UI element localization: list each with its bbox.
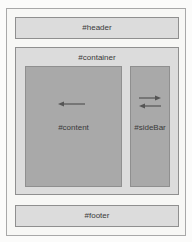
sidebar-label: #sideBar bbox=[131, 123, 169, 132]
content-label: #content bbox=[26, 123, 121, 132]
arrow-right-icon bbox=[139, 95, 161, 101]
arrow-left-icon bbox=[139, 103, 161, 109]
header-box: #header bbox=[15, 17, 179, 39]
sidebar-box: #sideBar bbox=[130, 66, 170, 187]
footer-label: #footer bbox=[85, 211, 110, 220]
content-box: #content bbox=[25, 66, 122, 187]
container-label: #container bbox=[16, 53, 178, 62]
footer-box: #footer bbox=[15, 205, 179, 227]
header-label: #header bbox=[82, 23, 111, 32]
arrow-left-icon bbox=[58, 101, 86, 107]
